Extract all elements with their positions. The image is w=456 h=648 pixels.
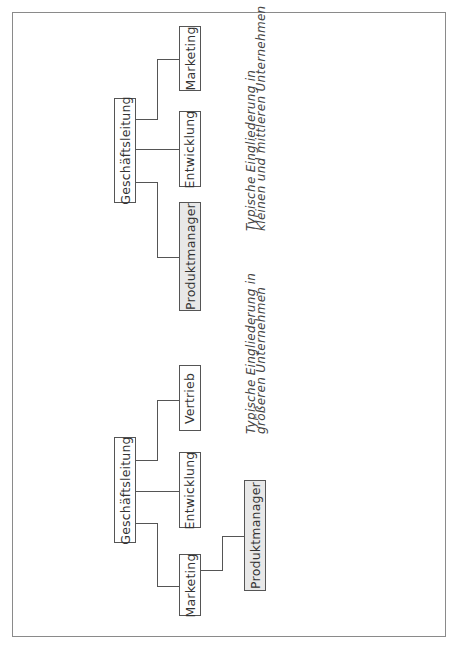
connector [201, 570, 222, 571]
connector [157, 586, 179, 587]
connector [157, 182, 158, 258]
node-produktmanager: Produktmanager [244, 480, 266, 591]
caption-small-medium: Typische Eingliederung in kleinen und mi… [247, 5, 266, 231]
connector [222, 536, 244, 537]
connector [157, 400, 158, 461]
connector [136, 149, 179, 150]
node-vertrieb: Vertrieb [179, 365, 201, 431]
connector [136, 523, 157, 524]
outer-frame [12, 12, 446, 637]
node-entwicklung: Entwicklung [179, 111, 201, 187]
connector [136, 491, 179, 492]
connector [136, 460, 157, 461]
connector [157, 400, 179, 401]
connector [157, 59, 179, 60]
node-marketing: Marketing [179, 26, 201, 91]
caption-large: Typische Eingliederung in größeren Unter… [247, 273, 266, 434]
connector [136, 119, 157, 120]
connector [136, 182, 157, 183]
connector [222, 536, 223, 571]
node-entwicklung: Entwicklung [179, 452, 201, 528]
connector [157, 523, 158, 587]
connector [157, 59, 158, 120]
node-marketing: Marketing [179, 554, 201, 616]
node-geschaeftsleitung: Geschäftsleitung [114, 98, 136, 203]
connector [157, 257, 179, 258]
node-produktmanager: Produktmanager [179, 202, 201, 311]
node-geschaeftsleitung: Geschäftsleitung [114, 437, 136, 543]
